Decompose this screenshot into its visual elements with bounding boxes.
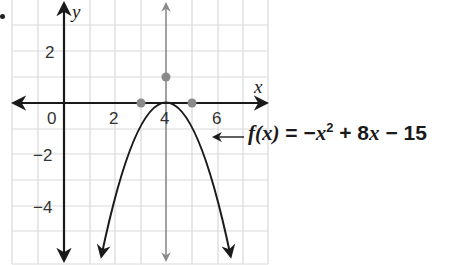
vertex-point	[162, 73, 171, 82]
y-tick-neg2: −2	[33, 146, 52, 165]
x-tick-6: 6	[212, 109, 221, 128]
y-tick-neg4: −4	[33, 198, 52, 217]
equation-part: + 8	[333, 121, 369, 144]
y-axis-label: y	[70, 1, 81, 22]
root-point-3	[137, 99, 146, 108]
parabola-figure: y x 0 2 4 6 2 −2 −4 f(x) = −x2 + 8x − 15	[0, 0, 464, 265]
function-equation: f(x) = −x2 + 8x − 15	[248, 120, 427, 146]
equation-part: − 15	[380, 121, 427, 144]
grid	[12, 0, 268, 264]
equation-var: x	[369, 121, 380, 145]
equation-part: = −	[279, 121, 315, 144]
x-tick-4: 4	[160, 109, 169, 128]
origin-label: 0	[47, 109, 56, 128]
x-tick-2: 2	[109, 109, 118, 128]
root-point-5	[188, 99, 197, 108]
equation-var: x	[316, 121, 327, 145]
y-tick-2: 2	[45, 43, 54, 62]
function-name: f(x)	[248, 121, 279, 145]
x-axis-label: x	[253, 76, 263, 97]
